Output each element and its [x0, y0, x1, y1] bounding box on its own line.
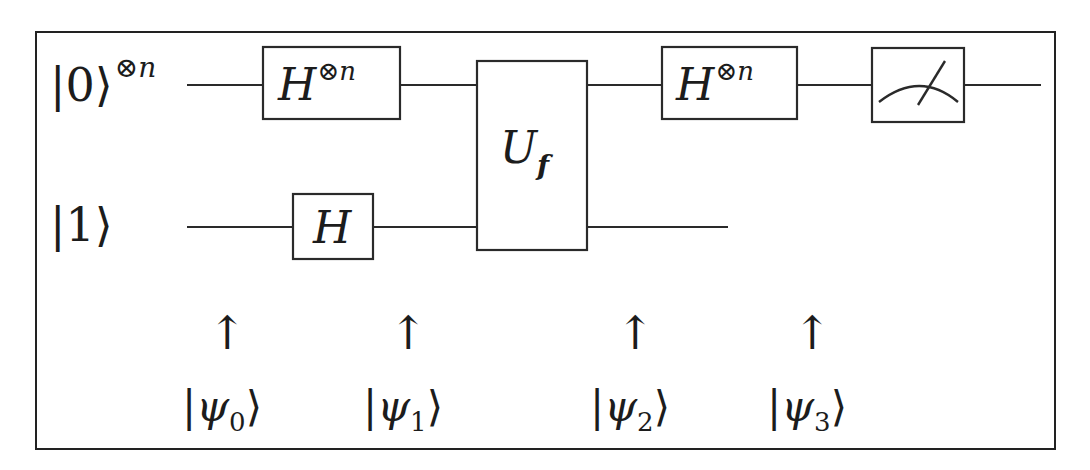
- meter-icon: [879, 61, 958, 105]
- gate-label-hadamard-n-1: H⊗n: [278, 63, 356, 107]
- gate-symbol: H: [278, 59, 316, 110]
- gate-label-hadamard-n-2: H⊗n: [676, 63, 754, 107]
- ket-close: ⟩: [95, 198, 113, 252]
- circuit-wires: [0, 0, 1090, 470]
- gate-label-hadamard-1: H: [313, 206, 351, 250]
- psi-symbol: ψ: [377, 382, 410, 431]
- ket-close: ⟩: [831, 382, 847, 431]
- state-label-psi-0: |ψ0⟩: [182, 386, 262, 428]
- psi-index: 0: [229, 407, 246, 437]
- ket-open: |: [767, 382, 781, 431]
- ket-value: 1: [66, 198, 95, 252]
- ket-open: |: [50, 198, 66, 252]
- ket-value: 0: [66, 58, 95, 112]
- tensor-power-superscript: ⊗n: [115, 51, 157, 84]
- state-arrow-1: ↑: [389, 310, 428, 356]
- register-label-bottom: |1⟩: [50, 202, 113, 248]
- ket-open: |: [182, 382, 196, 431]
- psi-symbol: ψ: [781, 382, 814, 431]
- gate-label-oracle: Uf: [500, 126, 549, 170]
- gate-symbol: H: [313, 202, 351, 253]
- psi-index: 2: [637, 407, 654, 437]
- state-arrow-3: ↑: [793, 310, 832, 356]
- ket-open: |: [363, 382, 377, 431]
- psi-symbol: ψ: [196, 382, 229, 431]
- gate-superscript: ⊗n: [715, 56, 754, 86]
- gate-symbol: H: [676, 59, 714, 110]
- psi-symbol: ψ: [604, 382, 637, 431]
- psi-index: 3: [814, 407, 831, 437]
- state-arrow-2: ↑: [616, 310, 655, 356]
- state-label-psi-2: |ψ2⟩: [590, 386, 670, 428]
- state-arrow-0: ↑: [208, 310, 247, 356]
- psi-index: 1: [410, 407, 427, 437]
- state-label-psi-3: |ψ3⟩: [767, 386, 847, 428]
- ket-open: |: [50, 58, 66, 112]
- ket-open: |: [590, 382, 604, 431]
- state-label-psi-1: |ψ1⟩: [363, 386, 443, 428]
- gate-symbol: U: [500, 122, 537, 173]
- gate-subscript: f: [537, 149, 549, 182]
- ket-close: ⟩: [427, 382, 443, 431]
- gate-superscript: ⊗n: [317, 56, 356, 86]
- register-label-top: |0⟩⊗n: [50, 62, 156, 108]
- ket-close: ⟩: [654, 382, 670, 431]
- ket-close: ⟩: [95, 58, 113, 112]
- ket-close: ⟩: [246, 382, 262, 431]
